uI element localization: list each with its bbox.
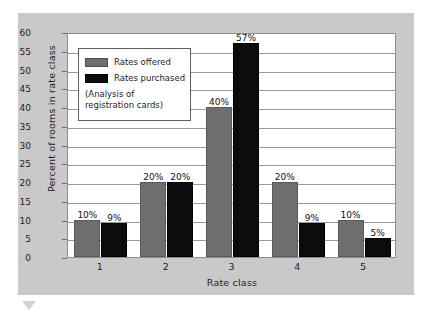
bar-value-label: 9% — [107, 213, 121, 223]
bar-value-label: 20% — [143, 172, 163, 182]
bar-purchased-class-1 — [101, 223, 127, 257]
bar-value-label: 10% — [341, 210, 361, 220]
chart-legend: Rates offered Rates purchased (Analysis … — [78, 48, 191, 121]
y-axis-tick-label: 0 — [9, 253, 31, 263]
legend-label-purchased: Rates purchased — [114, 73, 185, 83]
legend-note-line-2: registration cards) — [85, 100, 185, 111]
y-axis-tick-label: 25 — [9, 159, 31, 169]
x-axis-tick-label: 1 — [97, 261, 103, 272]
legend-label-offered: Rates offered — [114, 57, 171, 67]
y-axis-tick-label: 60 — [9, 28, 31, 38]
x-axis-tick-label: 4 — [294, 261, 300, 272]
bar-value-label: 57% — [236, 33, 256, 43]
bar-purchased-class-4 — [299, 223, 325, 257]
y-axis-tick-label: 30 — [9, 141, 31, 151]
y-axis-tick-label: 5 — [9, 234, 31, 244]
chart-figure-panel: Percent of rooms in rate class Rate clas… — [18, 13, 414, 295]
legend-note: (Analysis of registration cards) — [85, 89, 185, 111]
y-axis-tick-label: 45 — [9, 84, 31, 94]
bar-purchased-class-2 — [167, 182, 193, 257]
legend-swatch-icon-purchased — [85, 74, 108, 83]
y-axis-tick-label: 15 — [9, 197, 31, 207]
legend-item-rates-offered: Rates offered — [85, 55, 185, 69]
y-axis-tick-label: 40 — [9, 103, 31, 113]
legend-note-line-1: (Analysis of — [85, 89, 185, 100]
y-axis-tick-label: 55 — [9, 47, 31, 57]
x-axis-title: Rate class — [67, 277, 397, 288]
scan-artifact — [22, 301, 36, 310]
y-axis-tick-label: 50 — [9, 66, 31, 76]
bar-offered-class-1 — [74, 220, 100, 258]
y-axis-title: Percent of rooms in rate class — [46, 24, 57, 214]
bar-offered-class-4 — [272, 182, 298, 257]
y-axis-tick-label: 10 — [9, 216, 31, 226]
bar-purchased-class-3 — [233, 43, 259, 257]
bar-value-label: 9% — [305, 213, 319, 223]
x-axis-tick-label: 2 — [163, 261, 169, 272]
legend-item-rates-purchased: Rates purchased — [85, 71, 185, 85]
y-axis-tick-mark — [62, 258, 67, 259]
bar-offered-class-2 — [140, 182, 166, 257]
bar-value-label: 20% — [275, 172, 295, 182]
bar-purchased-class-5 — [365, 238, 391, 257]
bar-value-label: 10% — [77, 210, 97, 220]
y-axis-tick-label: 20 — [9, 178, 31, 188]
bar-value-label: 40% — [209, 97, 229, 107]
legend-swatch-icon-offered — [85, 58, 108, 67]
scanned-page: Percent of rooms in rate class Rate clas… — [0, 0, 431, 314]
x-axis-tick-label: 3 — [228, 261, 234, 272]
bar-value-label: 20% — [170, 172, 190, 182]
bar-offered-class-5 — [338, 220, 364, 258]
x-axis-tick-label: 5 — [360, 261, 366, 272]
bar-value-label: 5% — [370, 228, 384, 238]
y-axis-tick-label: 35 — [9, 122, 31, 132]
bar-offered-class-3 — [206, 107, 232, 257]
